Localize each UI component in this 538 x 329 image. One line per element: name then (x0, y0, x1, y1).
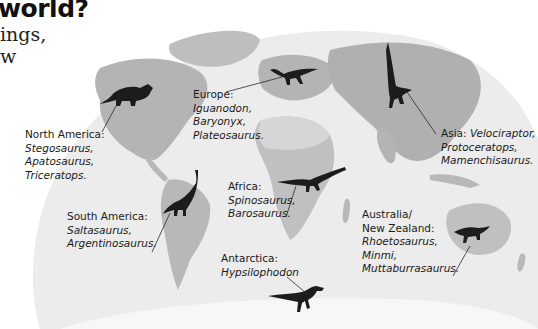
dinosaur-name: Plateosaurus. (193, 129, 264, 143)
label-asia: Asia: Velociraptor, Protoceratops, Mamen… (441, 127, 536, 168)
label-north-america: North America: Stegosaurus, Apatosaurus,… (25, 128, 105, 182)
dinosaur-name: Rhoetosaurus, (362, 235, 459, 249)
dinosaur-name: Minmi, (362, 249, 459, 263)
intro-line-1: ings, (0, 23, 46, 45)
dinosaur-name: Apatosaurus, (25, 155, 105, 169)
region-name: Africa: (228, 180, 296, 194)
label-antarctica: Antarctica: Hypsilophodon (221, 252, 299, 279)
dinosaur-name: Stegosaurus, (25, 142, 105, 156)
dinosaur-name: Spinosaurus, (228, 194, 296, 208)
dinosaur-name: Baryonyx, (193, 115, 264, 129)
dinosaur-name: Triceratops. (25, 169, 105, 183)
dinosaur-name: Saltasaurus, (67, 224, 157, 238)
dinosaur-name: Iguanodon, (193, 102, 264, 116)
dinosaur-name: Protoceratops, (441, 141, 536, 155)
region-name: Antarctica: (221, 252, 299, 266)
dinosaur-name: Argentinosaurus. (67, 237, 157, 251)
region-name: Europe: (193, 88, 264, 102)
intro-line-2: w (0, 45, 16, 67)
label-africa: Africa: Spinosaurus, Barosaurus. (228, 180, 296, 221)
label-australia-new-zealand: Australia/ New Zealand: Rhoetosaurus, Mi… (362, 208, 459, 276)
region-name: South America: (67, 210, 157, 224)
dinosaur-name: Barosaurus. (228, 207, 296, 221)
dinosaur-name: Muttaburrasaurus. (362, 262, 459, 276)
label-europe: Europe: Iguanodon, Baryonyx, Plateosauru… (193, 88, 264, 142)
dinosaur-name: Mamenchisaurus. (441, 154, 536, 168)
dinosaur-name: Velociraptor, (470, 127, 536, 139)
region-name: Asia: (441, 127, 470, 139)
region-name: North America: (25, 128, 105, 142)
dinosaur-name: Hypsilophodon (221, 266, 299, 280)
label-south-america: South America: Saltasaurus, Argentinosau… (67, 210, 157, 251)
region-name-line-2: New Zealand: (362, 222, 459, 236)
page-title: world? (0, 0, 89, 23)
region-name-line-1: Australia/ (362, 208, 459, 222)
